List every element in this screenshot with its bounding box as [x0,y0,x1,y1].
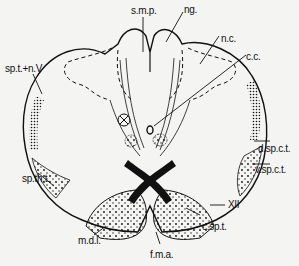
medulla-section-drawing [0,0,299,266]
label-nc: n.c. [221,34,236,44]
label-mdl: m.d.l. [78,236,101,246]
label-fma: f.m.a. [150,250,173,260]
label-spt-nV: sp.t.+n.V [5,64,42,74]
label-xii: XII [228,200,239,210]
label-dspct: d.sp.c.t. [258,144,290,154]
label-csp: c.sp.t. [202,222,227,232]
label-vspct: v.sp.c.t. [255,165,286,175]
label-cc: c.c. [246,52,260,62]
label-smp: s.m.p. [131,6,156,16]
label-ng: ng. [184,5,197,15]
label-spth: sp.th.t. [22,174,50,184]
